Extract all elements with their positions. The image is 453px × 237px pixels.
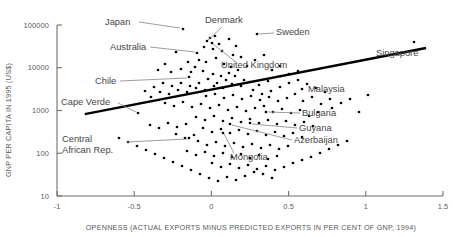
data-point [215, 141, 218, 144]
data-point [216, 82, 219, 85]
data-point [186, 91, 189, 94]
data-point [297, 79, 300, 82]
data-point [265, 165, 268, 168]
data-point [259, 99, 262, 102]
data-point [208, 177, 211, 180]
data-point [311, 96, 314, 99]
annotation-label: Guyana [299, 123, 332, 133]
data-point [228, 72, 231, 75]
scatter-plot: 10100100010000100000-1-0.500.511.5 Japan… [0, 0, 453, 237]
data-point [222, 120, 225, 123]
annotation-label: Cape Verde [61, 97, 110, 107]
data-point [223, 97, 226, 100]
annotation-leader-line [259, 33, 274, 34]
data-point [180, 82, 183, 85]
annotation-label: Japan [105, 17, 130, 27]
x-tick-label: -1 [54, 202, 61, 211]
data-point [292, 162, 295, 165]
data-point [263, 54, 266, 57]
x-tick-label: 1.5 [438, 202, 449, 211]
data-point [229, 163, 232, 166]
data-point [226, 176, 229, 179]
data-point [294, 124, 297, 127]
data-point [249, 122, 252, 125]
data-point [277, 100, 280, 103]
data-point [271, 177, 274, 180]
data-point [328, 148, 331, 151]
data-point [206, 40, 209, 43]
data-point [200, 103, 203, 106]
data-point [274, 131, 277, 134]
data-point [220, 166, 223, 169]
data-point [299, 109, 302, 112]
data-point [163, 157, 166, 160]
data-point [204, 119, 207, 122]
data-point [229, 123, 232, 126]
annotation-label: Azerbaijan [294, 135, 338, 145]
data-point [329, 98, 332, 101]
data-point [198, 59, 201, 62]
data-point [186, 150, 189, 153]
data-point [207, 78, 210, 81]
data-point [137, 112, 140, 115]
data-point [262, 173, 265, 176]
data-point [358, 111, 361, 114]
data-point [310, 156, 313, 159]
data-point [118, 137, 121, 140]
data-point [278, 148, 281, 151]
annotation-labels: JapanDenmarkSwedenAustraliaUnited Kingdo… [61, 15, 418, 162]
data-point [319, 152, 322, 155]
y-axis-title: GNP PER CAPITA IN 1995 (US$) [4, 63, 13, 177]
data-point [225, 79, 228, 82]
data-point [218, 104, 221, 107]
data-point [159, 91, 162, 94]
data-point [173, 105, 176, 108]
data-point [269, 144, 272, 147]
annotation-leader-line [208, 27, 222, 40]
data-point [213, 85, 216, 88]
data-point [182, 28, 185, 31]
data-point [367, 94, 370, 97]
data-point [136, 145, 139, 148]
data-point [199, 173, 202, 176]
data-point [175, 51, 178, 54]
data-point [217, 180, 220, 183]
data-point [279, 86, 282, 89]
data-point [235, 45, 238, 48]
data-point [167, 122, 170, 125]
data-point [234, 75, 237, 78]
data-point [294, 93, 297, 96]
data-point [238, 167, 241, 170]
data-point [236, 106, 239, 109]
data-point [233, 142, 236, 145]
annotation-leader-line [252, 124, 297, 128]
y-tick-label: 10000 [28, 63, 49, 72]
data-point [211, 131, 214, 134]
data-point [202, 127, 205, 130]
data-point [288, 82, 291, 85]
data-point [260, 147, 263, 150]
x-tick-label: 0 [209, 202, 213, 211]
y-tick-label: 10 [40, 192, 49, 201]
data-point [254, 107, 257, 110]
data-point [258, 122, 261, 125]
data-point [302, 100, 305, 103]
data-point [220, 128, 223, 131]
data-point [162, 82, 165, 85]
annotation-label: Denmark [205, 15, 243, 25]
y-tick-label: 100 [36, 149, 49, 158]
data-point [168, 93, 171, 96]
data-point [240, 121, 243, 124]
data-point [195, 154, 198, 157]
annotation-leader-line [120, 78, 187, 81]
data-point [287, 145, 290, 148]
data-point [195, 116, 198, 119]
data-point [240, 56, 243, 59]
data-point [170, 71, 173, 74]
data-point [171, 85, 174, 88]
data-point [211, 42, 214, 45]
trend-line [85, 48, 426, 114]
data-point [212, 73, 215, 76]
annotation-label: Singapore [376, 48, 418, 58]
annotation-label: Central [62, 134, 92, 144]
